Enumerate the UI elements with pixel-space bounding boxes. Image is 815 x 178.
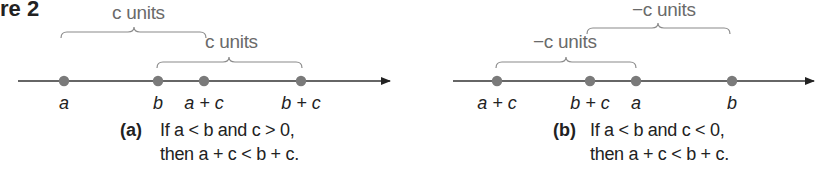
brace-b-1 [587,23,730,34]
point-label-a: a [59,93,69,114]
point-label-a-plus-c: a + c [184,93,224,114]
caption-a-line-2: then a + c < b + c. [160,142,299,166]
brace-label-a-1: c units [112,2,165,24]
point-b-plus-c [296,76,306,86]
point-label-b-plus-c: b + c [570,93,610,114]
point-label-a-plus-c: a + c [477,93,517,114]
panel-b-number-line [453,23,814,86]
point-a [59,76,69,86]
caption-b-line-1: If a < b and c < 0, [590,118,729,142]
caption-a-line-1: If a < b and c > 0, [160,118,299,142]
brace-a-1 [61,27,206,38]
brace-label-a-2: c units [205,31,258,53]
point-a-plus-c [199,76,209,86]
caption-b-tag: (b) [553,118,576,142]
point-b [727,76,737,86]
point-label-b-plus-c: b + c [281,93,321,114]
point-b [153,76,163,86]
caption-a-tag: (a) [120,118,142,142]
caption-b-line-2: then a + c < b + c. [590,142,729,166]
point-label-b: b [153,93,163,114]
brace-label-b-2: −c units [533,31,597,53]
brace-a-2 [157,57,302,68]
point-a [631,76,641,86]
brace-b-2 [496,57,636,68]
panel-a-number-line [18,27,390,86]
point-label-b: b [727,93,737,114]
point-label-a: a [631,93,641,114]
brace-label-b-1: −c units [632,0,696,21]
point-a-plus-c [492,76,502,86]
point-b-plus-c [585,76,595,86]
